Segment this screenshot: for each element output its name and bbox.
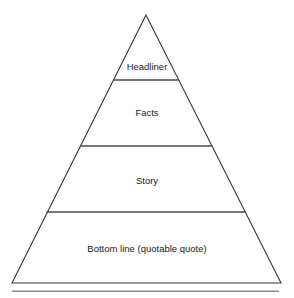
tier-label-facts: Facts — [0, 108, 294, 118]
tier-label-story: Story — [0, 176, 294, 186]
pyramid-diagram: Headliner Facts Story Bottom line (quota… — [0, 0, 294, 298]
tier-label-bottom-line: Bottom line (quotable quote) — [0, 244, 294, 254]
cropped-caption-strip — [0, 294, 294, 298]
tier-label-headliner: Headliner — [0, 62, 294, 72]
